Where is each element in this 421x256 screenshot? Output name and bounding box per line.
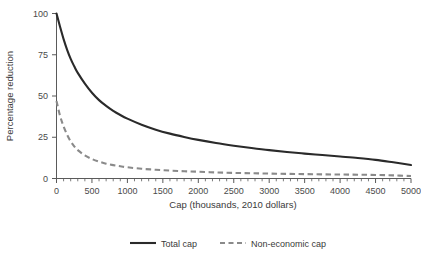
y-tick-label-75: 75 bbox=[38, 50, 48, 60]
x-tick-label-500: 500 bbox=[84, 186, 99, 196]
legend-label-total-cap: Total cap bbox=[161, 239, 197, 249]
x-tick-label-1000: 1000 bbox=[117, 186, 137, 196]
x-tick-label-3500: 3500 bbox=[295, 186, 315, 196]
legend-label-non-economic-cap: Non-economic cap bbox=[251, 239, 326, 249]
x-tick-label-0: 0 bbox=[54, 186, 59, 196]
y-tick-label-25: 25 bbox=[38, 132, 48, 142]
chart-figure: 0 25 50 75 100 0500100015002000250030003… bbox=[0, 0, 421, 256]
x-tick-label-3000: 3000 bbox=[259, 186, 279, 196]
x-tick-label-2000: 2000 bbox=[188, 186, 208, 196]
x-tick-label-5000: 5000 bbox=[401, 186, 421, 196]
x-tick-label-4500: 4500 bbox=[366, 186, 386, 196]
y-tick-label-100: 100 bbox=[33, 9, 48, 19]
x-tick-label-1500: 1500 bbox=[153, 186, 173, 196]
chart-svg: 0 25 50 75 100 0500100015002000250030003… bbox=[0, 0, 421, 256]
y-tick-label-0: 0 bbox=[43, 174, 48, 184]
x-tick-label-2500: 2500 bbox=[224, 186, 244, 196]
x-tick-label-4000: 4000 bbox=[330, 186, 350, 196]
x-axis-title: Cap (thousands, 2010 dollars) bbox=[169, 199, 296, 210]
y-tick-label-50: 50 bbox=[38, 91, 48, 101]
y-axis-title: Percentage reduction bbox=[4, 51, 15, 141]
